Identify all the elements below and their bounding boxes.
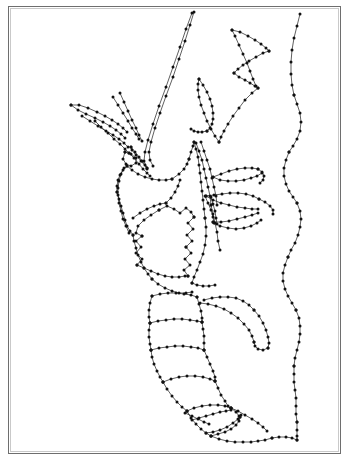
landmark-vertex	[220, 221, 223, 224]
landmark-vertex	[123, 167, 126, 170]
landmark-vertex	[244, 79, 247, 82]
landmark-vertex	[159, 293, 162, 296]
landmark-vertex	[207, 186, 210, 189]
landmark-vertex	[217, 404, 220, 407]
polyline-head-front-ridge	[127, 166, 172, 180]
landmark-vertex	[158, 105, 161, 108]
landmark-vertex	[190, 128, 193, 131]
landmark-vertex	[212, 199, 215, 202]
landmark-vertex	[210, 196, 213, 199]
landmark-vertex	[112, 96, 115, 99]
landmark-vertex	[196, 269, 199, 272]
landmark-vertex	[201, 405, 204, 408]
landmark-vertex	[150, 141, 153, 144]
landmark-vertex	[212, 413, 215, 416]
landmark-vertex	[152, 165, 155, 168]
landmark-vertex	[138, 156, 141, 159]
landmark-vertex	[118, 138, 121, 141]
landmark-vertex	[191, 282, 194, 285]
polyline-head-dorsal-edge	[172, 159, 189, 179]
landmark-vertex	[244, 216, 247, 219]
landmark-vertex	[193, 407, 196, 410]
landmark-vertex	[132, 234, 135, 237]
landmark-vertex	[176, 401, 179, 404]
landmark-vertex	[237, 192, 240, 195]
landmark-vertex	[249, 82, 252, 85]
landmark-vertex	[232, 422, 235, 425]
landmark-vertex	[191, 291, 194, 294]
landmark-vertex	[118, 180, 121, 183]
landmark-vertex	[278, 436, 281, 439]
polyline-gill-zigzag-mid	[186, 217, 194, 247]
landmark-vertex	[206, 120, 209, 123]
landmark-vertex	[268, 342, 271, 345]
landmark-vertex	[251, 92, 254, 95]
landmark-vertex	[141, 140, 144, 143]
landmark-vertex	[135, 154, 138, 157]
landmark-vertex	[293, 365, 296, 368]
landmark-vertex	[151, 356, 154, 359]
landmark-vertex	[238, 44, 241, 47]
landmark-vertex	[292, 196, 295, 199]
landmark-vertex	[242, 300, 245, 303]
landmark-vertex	[200, 310, 203, 313]
landmark-vertex	[124, 151, 127, 154]
landmark-vertex	[234, 35, 237, 38]
landmark-vertex	[256, 222, 259, 225]
landmark-vertex	[220, 394, 223, 397]
landmark-vertex	[203, 335, 206, 338]
landmark-vertex	[260, 219, 263, 222]
landmark-vertex	[220, 136, 223, 139]
landmark-vertex	[282, 272, 285, 275]
landmark-vertex	[170, 378, 173, 381]
landmark-vertex	[227, 405, 230, 408]
landmark-vertex	[212, 213, 215, 216]
landmark-vertex	[227, 296, 230, 299]
landmark-vertex	[120, 210, 123, 213]
landmark-vertex	[202, 253, 205, 256]
polyline-layer	[71, 12, 301, 442]
landmark-vertex	[185, 207, 188, 210]
landmark-vertex	[229, 192, 232, 195]
landmark-vertex	[296, 421, 299, 424]
landmark-vertex	[244, 207, 247, 210]
landmark-vertex	[266, 430, 269, 433]
landmark-vertex	[262, 322, 265, 325]
landmark-vertex	[164, 275, 167, 278]
polyline-carapace-right-margin-lower	[192, 218, 206, 283]
landmark-vertex	[184, 258, 187, 261]
landmark-vertex	[123, 142, 126, 145]
landmark-vertex	[120, 173, 123, 176]
landmark-vertex	[235, 228, 238, 231]
landmark-vertex	[94, 117, 97, 120]
landmark-vertex	[224, 405, 227, 408]
landmark-vertex	[299, 130, 302, 133]
landmark-vertex	[285, 436, 288, 439]
landmark-vertex	[154, 127, 157, 130]
landmark-vertex	[170, 197, 173, 200]
landmark-vertex	[120, 133, 123, 136]
landmark-vertex	[220, 202, 223, 205]
landmark-vertex	[226, 426, 229, 429]
landmark-vertex	[184, 275, 187, 278]
landmark-vertex	[165, 86, 168, 89]
landmark-vertex	[295, 309, 298, 312]
landmark-vertex	[134, 151, 137, 154]
landmark-vertex	[244, 99, 247, 102]
landmark-vertex	[287, 295, 290, 298]
landmark-vertex	[193, 216, 196, 219]
landmark-vertex	[293, 37, 296, 40]
landmark-vertex	[131, 127, 134, 130]
landmark-vertex	[135, 232, 138, 235]
landmark-vertex	[234, 441, 237, 444]
landmark-vertex	[150, 270, 153, 273]
landmark-vertex	[94, 120, 97, 123]
landmark-vertex	[117, 187, 120, 190]
landmark-vertex	[296, 435, 299, 438]
landmark-vertex	[257, 212, 260, 215]
landmark-vertex	[159, 112, 162, 115]
landmark-vertex	[206, 159, 209, 162]
landmark-vertex	[253, 309, 256, 312]
landmark-vertex	[144, 151, 147, 154]
landmark-vertex	[299, 13, 302, 16]
